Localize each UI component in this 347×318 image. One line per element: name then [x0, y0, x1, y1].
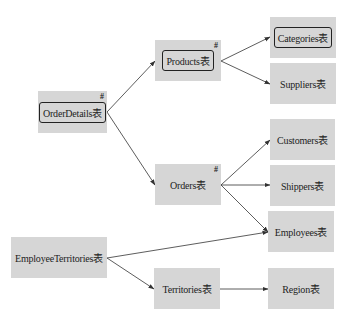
hash-marker: #: [214, 41, 218, 50]
node-shippers[interactable]: Shippers表: [270, 165, 335, 206]
node-label: Customers表: [277, 132, 328, 147]
edge-products-to-categories: [221, 37, 270, 61]
node-territories[interactable]: Territories表: [154, 268, 220, 309]
node-label: EmployeeTerritories表: [15, 250, 103, 265]
node-label: Categories表: [274, 27, 333, 48]
node-label: Shippers表: [281, 178, 324, 193]
node-label: Territories表: [162, 281, 211, 296]
node-label: Suppliers表: [280, 76, 326, 91]
node-products[interactable]: Products表#: [155, 40, 221, 81]
node-employees[interactable]: Employees表: [268, 211, 334, 252]
node-label: OrderDetails表: [39, 102, 106, 123]
node-region[interactable]: Region表: [268, 268, 334, 309]
node-employeeterritories[interactable]: EmployeeTerritories表: [11, 237, 107, 278]
hash-marker: #: [214, 165, 218, 174]
node-categories[interactable]: Categories表: [270, 17, 336, 58]
node-orders[interactable]: Orders表#: [155, 164, 221, 205]
edge-products-to-suppliers: [221, 61, 270, 84]
node-label: Orders表: [170, 177, 206, 192]
edge-orderdetails-to-products: [107, 61, 155, 112]
node-orderdetails[interactable]: OrderDetails表#: [38, 91, 107, 133]
edge-employeeterritories-to-employees: [107, 232, 268, 258]
hash-marker: #: [100, 92, 104, 101]
node-label: Products表: [162, 50, 213, 71]
edge-employeeterritories-to-territories: [107, 258, 154, 289]
node-label: Employees表: [275, 224, 327, 239]
node-customers[interactable]: Customers表: [270, 119, 335, 160]
edge-orders-to-employees: [221, 185, 268, 232]
node-label: Region表: [282, 281, 320, 296]
node-suppliers[interactable]: Suppliers表: [270, 63, 336, 104]
edge-orders-to-customers: [221, 140, 270, 185]
edge-orderdetails-to-orders: [107, 112, 155, 185]
